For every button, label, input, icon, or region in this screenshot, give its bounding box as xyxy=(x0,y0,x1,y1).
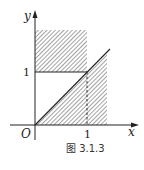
y-axis-label: y xyxy=(23,9,31,23)
origin-label: O xyxy=(21,127,31,141)
diagram-canvas: y x O 1 1 图 3.1.3 xyxy=(0,0,144,170)
upper-rectangle-region xyxy=(35,30,87,72)
figure-caption: 图 3.1.3 xyxy=(66,143,105,154)
y-tick-label-1: 1 xyxy=(23,66,30,79)
y-axis-arrow-icon xyxy=(33,10,38,18)
x-axis-label: x xyxy=(128,125,135,139)
x-tick-label-1: 1 xyxy=(84,128,91,141)
